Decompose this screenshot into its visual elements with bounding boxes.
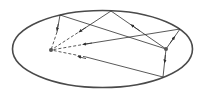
focus-point-f2 xyxy=(164,47,168,51)
ray-upper-left-to-f1-dashed xyxy=(51,32,57,50)
ray-arrow xyxy=(170,38,174,44)
ray-lower-right-to-f1-solid xyxy=(86,57,163,77)
ray-top-to-f1-solid xyxy=(82,11,111,30)
ray-arrow xyxy=(57,24,58,30)
ray-top-to-f1-dashed xyxy=(51,30,82,50)
focus-point-f1 xyxy=(49,48,53,52)
ray-arrow xyxy=(84,43,92,44)
ellipse-reflection-diagram xyxy=(0,0,205,95)
ray-arrow xyxy=(132,25,140,31)
ray-f2-to-lower-right xyxy=(163,49,166,77)
ray-arrow xyxy=(80,27,86,31)
ray-upper-right-to-f1-solid xyxy=(86,29,180,44)
ray-f2-to-upper-left xyxy=(60,15,166,49)
ray-lower-right-to-f1-dashed xyxy=(51,50,86,57)
